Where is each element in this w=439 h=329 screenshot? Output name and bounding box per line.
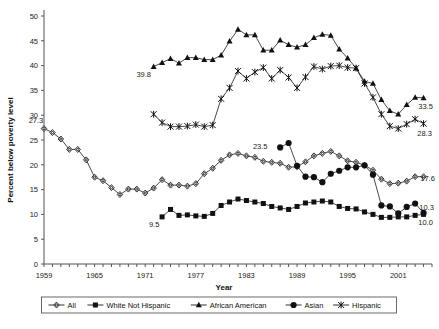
point-label: 39.8: [136, 70, 151, 79]
y-tick-label: 5: [34, 235, 38, 244]
y-tick-label: 20: [30, 161, 38, 170]
x-tick-label: 1977: [187, 271, 204, 280]
point-label: 10.3: [419, 203, 434, 212]
point-label: 17.6: [420, 174, 435, 183]
poverty-line-chart: 05101520253035404550 1959196519711977198…: [0, 0, 439, 329]
y-tick-label: 35: [30, 86, 38, 95]
chart-legend: AllWhite Not HispanicAfrican AmericanAsi…: [42, 297, 397, 313]
x-axis-title: Year: [216, 283, 233, 292]
y-tick-label: 0: [34, 260, 38, 269]
y-tick-label: 10: [30, 210, 38, 219]
point-label: 9.5: [149, 220, 159, 229]
y-tick-label: 25: [30, 136, 38, 145]
legend-label: Hispanic: [352, 301, 381, 310]
point-label: 10.0: [418, 218, 433, 227]
x-tick-label: 1965: [86, 271, 103, 280]
x-tick-label: 2001: [390, 271, 407, 280]
legend-label: Asian: [305, 301, 324, 310]
x-tick-label: 1959: [36, 271, 53, 280]
y-axis-title: Percent below poverty level: [6, 97, 15, 202]
point-label: 27.3: [29, 116, 44, 125]
legend-label: White Not Hispanic: [106, 301, 170, 310]
y-tick-label: 15: [30, 185, 38, 194]
y-tick-label: 50: [30, 12, 38, 21]
legend-label: African American: [210, 301, 267, 310]
chart-canvas: 05101520253035404550 1959196519711977198…: [0, 0, 439, 329]
y-tick-label: 40: [30, 61, 38, 70]
point-label: 28.3: [417, 129, 432, 138]
x-tick-label: 1983: [238, 271, 255, 280]
legend-label: All: [68, 301, 77, 310]
point-label: 23.5: [253, 142, 268, 151]
x-tick-label: 1995: [339, 271, 356, 280]
chart-background: [0, 0, 439, 329]
y-tick-label: 45: [30, 37, 38, 46]
x-tick-label: 1989: [289, 271, 306, 280]
x-tick-label: 1971: [137, 271, 154, 280]
point-label: 33.5: [418, 102, 433, 111]
